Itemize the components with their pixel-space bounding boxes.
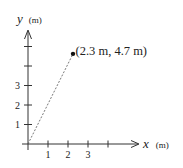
y-axis-title: y (m) bbox=[15, 9, 42, 26]
y-ticks: 123 bbox=[15, 47, 32, 131]
x-axis-title: x (m) bbox=[142, 134, 169, 151]
y-tick-label: 2 bbox=[15, 100, 20, 111]
x-axis-unit: (m) bbox=[156, 140, 169, 150]
x-tick-label: 2 bbox=[66, 149, 71, 160]
y-axis-unit: (m) bbox=[29, 15, 42, 25]
point-label: (2.3 m, 4.7 m) bbox=[76, 44, 148, 58]
position-line bbox=[28, 54, 73, 144]
diagram-canvas: 123 123 x (m) y (m) (2.3 m, 4.7 m) bbox=[0, 0, 183, 168]
y-tick-label: 3 bbox=[15, 80, 20, 91]
y-axis-variable: y bbox=[15, 11, 23, 26]
x-tick-label: 1 bbox=[46, 149, 51, 160]
y-tick-label: 1 bbox=[15, 119, 20, 130]
x-tick-label: 3 bbox=[86, 149, 91, 160]
x-ticks: 123 bbox=[46, 141, 109, 161]
x-axis-variable: x bbox=[142, 136, 149, 151]
